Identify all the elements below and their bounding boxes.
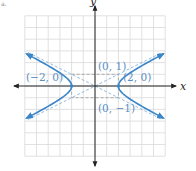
hyperbola-graph: a. (−2, 0) (2, 0) (0, 1) (0, −1) x y — [0, 0, 196, 171]
left-vertex-label: (−2, 0) — [26, 71, 63, 83]
left-vertex-point — [70, 84, 74, 88]
right-vertex-label: (2, 0) — [123, 71, 151, 83]
top-covertex-label: (0, 1) — [98, 60, 126, 72]
y-axis-label: y — [89, 0, 97, 8]
corner-mark: a. — [1, 0, 7, 7]
bottom-covertex-label: (0, −1) — [98, 102, 135, 114]
x-axis-label: x — [180, 80, 187, 93]
right-vertex-point — [117, 84, 121, 88]
